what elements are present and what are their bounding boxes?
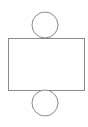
top-circle-face xyxy=(32,12,58,38)
lateral-surface-rectangle xyxy=(9,39,85,91)
cylinder-net-diagram xyxy=(0,0,88,127)
bottom-circle-face xyxy=(32,90,58,116)
